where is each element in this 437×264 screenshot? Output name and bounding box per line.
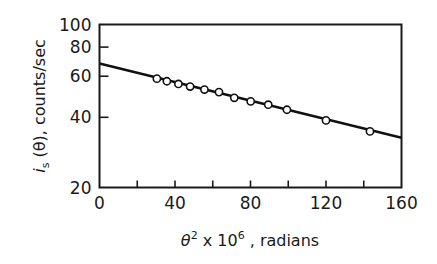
data-point [283,106,290,113]
data-point [322,117,329,124]
data-point [231,94,238,101]
data-point [247,98,254,105]
data-point [187,83,194,90]
x-tick-label: 160 [385,193,417,213]
data-point [201,86,208,93]
data-point [215,89,222,96]
x-tick-label: 40 [164,193,186,213]
y-axis-label: is (θ), counts/sec [30,39,52,173]
chart: 0408012016020406080100 is (θ), counts/se… [0,0,437,264]
plot-frame [100,25,402,188]
y-tick-label: 100 [59,15,91,35]
x-tick-label: 80 [240,193,262,213]
y-tick-label: 80 [70,37,92,57]
data-point [163,78,170,85]
y-tick-label: 40 [70,107,92,127]
plot-area-border [100,25,402,188]
data-point [153,75,160,82]
x-tick-label: 120 [310,193,342,213]
x-axis-label: θ2 x 106 , radians [181,229,319,250]
y-tick-label: 60 [70,66,92,86]
data-point [175,80,182,87]
y-tick-label: 20 [70,178,92,198]
data-point [366,128,373,135]
x-tick-label: 0 [94,193,105,213]
data-point [265,101,272,108]
